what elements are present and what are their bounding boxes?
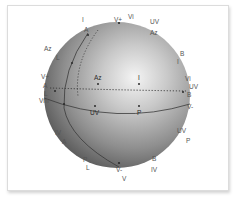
label-bottom-vminus: V- [116,166,122,173]
marker-right-equator [182,91,184,93]
label-top-vplus: V+ [114,16,122,23]
label-left-vplus: V+ [41,73,49,80]
sphere-diagram: Az I UV P I A V+ Vi UV Az Az L V+ A L Vm… [0,0,234,200]
label-left-iv: IV [55,129,62,136]
marker-i [138,83,140,85]
label-bottom-v: V [122,175,127,182]
label-right-b2: B [187,91,191,98]
inner-label-p: P [137,109,141,116]
label-left-a: A [43,82,48,89]
label-top-i: I [82,16,84,23]
label-right-uv: UV [189,83,199,90]
inner-label-az: Az [94,74,102,81]
label-left-vm: Vm [39,97,49,104]
label-top-az: Az [150,29,158,36]
label-left-a2: A [62,138,67,145]
label-top-a: A [84,26,89,33]
marker-left-lower [63,103,65,105]
label-right-vminus: V- [187,103,193,110]
label-bottom-iv: IV [151,166,158,173]
label-bottom-b: B [152,155,156,162]
label-top-vi: Vi [128,13,134,20]
label-right-i: I [177,58,179,65]
label-right-uv2: UV [177,127,187,134]
inner-label-uv: UV [90,109,100,116]
marker-p [138,105,140,107]
marker-meridian-top [87,34,89,36]
marker-meridian-mid [71,62,73,64]
label-bottom-l: L [86,164,90,171]
label-top-uv: UV [150,18,160,25]
label-left-l2: L [44,90,48,97]
label-left-az: Az [44,45,52,52]
label-right-vi: Vi [185,75,191,82]
sphere [44,22,190,168]
marker-uv [94,105,96,107]
label-right-p: P [186,137,190,144]
label-left-l: L [56,54,60,61]
marker-az [97,83,99,85]
label-right-b: B [180,50,184,57]
inner-label-i: I [138,74,140,81]
marker-bottom [118,162,120,164]
marker-left-equator [54,90,56,92]
label-bottom-p: P [83,156,87,163]
